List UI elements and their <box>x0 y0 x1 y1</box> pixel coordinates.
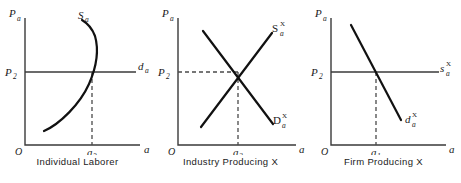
axes <box>331 18 446 145</box>
supply-curve-backward-bending <box>44 20 97 131</box>
price-level-label: P <box>4 66 12 78</box>
price-level-label: P <box>157 66 165 78</box>
supply-curve-label-subscript: a <box>446 69 450 78</box>
supply-curve-label: S <box>78 9 84 21</box>
demand-curve-label: d <box>405 113 411 125</box>
origin-label: O <box>321 146 328 155</box>
supply-curve-label-subscript: a <box>280 29 284 38</box>
panel-caption-firm-producing-x: Firm Producing X <box>306 156 461 167</box>
y-axis-label-subscript: a <box>17 14 21 23</box>
demand-curve-label-subscript: a <box>412 120 416 129</box>
axes <box>25 18 140 145</box>
supply-curve-label-subscript: a <box>85 15 89 24</box>
economics-supply-demand-figure: P a a O P 2 a 3 S a d a Individual Labor… <box>0 0 461 183</box>
supply-curve-label: S <box>272 22 278 34</box>
quantity-tick-subscript: 3 <box>92 152 97 155</box>
price-level-subscript: 2 <box>166 72 170 81</box>
demand-curve-label: d <box>138 60 144 72</box>
price-level-label: P <box>310 66 318 78</box>
chart-firm-producing-x: P a a O P 2 a 1 s a X d a X <box>306 0 461 155</box>
demand-curve-label-subscript: a <box>282 121 286 130</box>
origin-label: O <box>15 146 22 155</box>
y-axis-label-subscript: a <box>323 14 327 23</box>
y-axis-label: P <box>8 7 16 19</box>
quantity-tick-subscript: 2 <box>239 152 243 155</box>
y-axis-label: P <box>161 7 169 19</box>
panel-caption-individual-laborer: Individual Laborer <box>0 156 155 167</box>
origin-label: O <box>168 146 175 155</box>
demand-curve-label: D <box>273 114 281 126</box>
demand-curve-label-superscript: X <box>282 112 287 120</box>
chart-industry-producing-x: P a a O P 2 a 2 S a X D a X <box>153 0 308 155</box>
y-axis-label-subscript: a <box>170 14 174 23</box>
panel-caption-industry-producing-x: Industry Producing X <box>153 156 308 167</box>
demand-curve-label-subscript: a <box>145 66 149 75</box>
supply-curve-label-superscript: X <box>446 60 451 68</box>
quantity-tick-subscript: 1 <box>377 152 381 155</box>
panel-industry-producing-x: P a a O P 2 a 2 S a X D a X Industry Pro… <box>153 0 308 183</box>
x-axis-label: a <box>144 143 150 155</box>
supply-curve-label: s <box>440 62 444 74</box>
demand-curve-label-superscript: X <box>412 111 417 119</box>
supply-curve-label-superscript: X <box>280 20 285 28</box>
price-level-subscript: 2 <box>13 72 17 81</box>
price-level-subscript: 2 <box>319 72 323 81</box>
x-axis-label: a <box>449 143 455 155</box>
supply-curve-upward <box>201 33 272 127</box>
y-axis-label: P <box>314 7 322 19</box>
chart-individual-laborer: P a a O P 2 a 3 S a d a <box>0 0 155 155</box>
x-axis-label: a <box>299 143 305 155</box>
panel-individual-laborer: P a a O P 2 a 3 S a d a Individual Labor… <box>0 0 155 183</box>
panel-firm-producing-x: P a a O P 2 a 1 s a X d a X Firm Produci… <box>306 0 461 183</box>
